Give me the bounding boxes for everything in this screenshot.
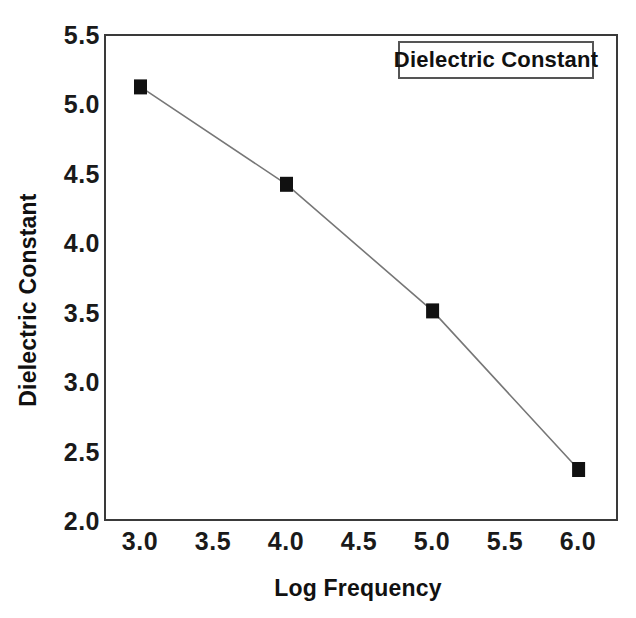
data-point-marker	[280, 177, 293, 192]
y-tick-label: 2.0	[4, 507, 100, 536]
legend-label: Dielectric Constant	[394, 47, 598, 73]
y-axis-title: Dielectric Constant	[15, 193, 42, 406]
x-axis-title: Log Frequency	[0, 575, 636, 602]
y-tick-label: 5.0	[4, 90, 100, 119]
legend: Dielectric Constant	[398, 41, 594, 79]
chart-figure: 5.5 5.0 4.5 4.0 3.5 3.0 2.5 2.0 Dielectr…	[0, 0, 636, 618]
y-tick-label: 2.5	[4, 438, 100, 467]
series-line	[141, 87, 579, 470]
x-tick-label: 6.0	[533, 527, 623, 556]
data-series-dielectric-constant	[104, 34, 618, 521]
y-tick-label: 4.5	[4, 160, 100, 189]
data-point-marker	[134, 79, 147, 94]
data-point-marker	[426, 303, 439, 318]
y-tick-label: 5.5	[4, 21, 100, 50]
data-point-marker	[572, 462, 585, 477]
